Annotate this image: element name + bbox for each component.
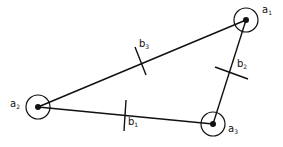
node-label-a3: a3 — [228, 124, 238, 135]
edge-label-b1: b1 — [128, 117, 138, 128]
tick-mark-b1 — [124, 100, 126, 131]
node-label-a1: a1 — [262, 5, 272, 16]
node-dot-a2 — [35, 104, 41, 110]
node-dot-a1 — [243, 17, 249, 23]
edge-ticks-group — [124, 47, 248, 131]
edge-label-b2: b2 — [237, 59, 247, 70]
node-label-a2: a2 — [10, 99, 20, 110]
edge-label-b3: b3 — [139, 39, 149, 50]
graph-svg — [0, 0, 283, 147]
edges-group — [38, 20, 246, 124]
tick-mark-b3 — [135, 47, 146, 75]
node-dot-a3 — [210, 121, 216, 127]
diagram-canvas: a1 a2 a3 b1 b2 b3 — [0, 0, 283, 147]
